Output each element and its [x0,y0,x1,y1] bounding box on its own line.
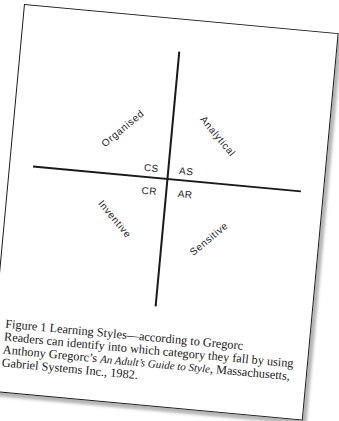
quadrant-code-cr: CR [141,186,157,197]
figure-page: CS AS CR AR Organised Analytical Inventi… [0,4,339,421]
figure-caption: Figure 1 Learning Styles—according to Gr… [1,318,305,397]
quadrant-label-inventive: Inventive [96,199,133,240]
quadrant-code-as: AS [179,166,194,177]
quadrant-code-ar: AR [177,189,193,200]
quadrant-label-organised: Organised [100,108,146,149]
quadrant-label-analytical: Analytical [198,114,237,158]
quadrant-label-sensitive: Sensitive [188,221,230,258]
quadrant-code-cs: CS [143,163,159,174]
